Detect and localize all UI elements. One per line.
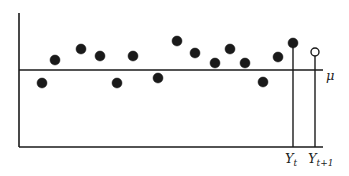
data-point	[225, 44, 235, 54]
data-point	[190, 48, 200, 58]
data-point	[240, 58, 250, 68]
data-point	[172, 36, 182, 46]
mean-label-mu: μ	[326, 69, 334, 82]
data-points	[37, 36, 319, 147]
data-point	[288, 38, 298, 48]
x-label-sub: t+1	[317, 158, 334, 168]
data-point	[37, 78, 47, 88]
x-label-y-t: Yt	[285, 152, 297, 168]
x-label-sub: t	[294, 158, 298, 168]
data-point	[273, 52, 283, 62]
data-point	[95, 51, 105, 61]
axes	[19, 13, 323, 147]
data-point	[76, 44, 86, 54]
x-label-main: Y	[308, 151, 317, 166]
data-point	[128, 51, 138, 61]
time-series-diagram	[0, 0, 349, 176]
forecast-point-open	[311, 48, 319, 56]
data-point	[153, 73, 163, 83]
x-label-y-t-plus-1: Yt+1	[308, 152, 333, 168]
data-point	[50, 55, 60, 65]
x-label-main: Y	[285, 151, 294, 166]
data-point	[112, 78, 122, 88]
data-point	[258, 77, 268, 87]
data-point	[210, 58, 220, 68]
